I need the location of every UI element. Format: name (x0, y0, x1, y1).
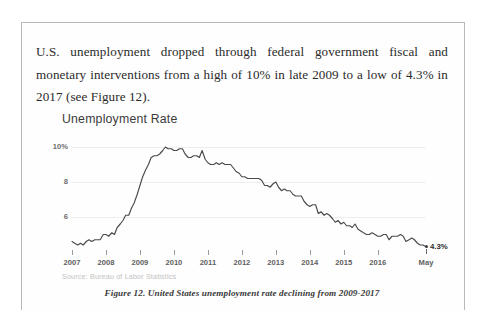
chart-source-note: Source: Bureau of Labor Statistics (62, 272, 176, 281)
x-axis-label-2008: 2008 (98, 258, 115, 267)
x-axis-tick-2013 (276, 250, 277, 255)
unemployment-line-path (72, 147, 426, 247)
x-axis-label-2015: 2015 (335, 258, 352, 267)
x-axis-tick-2015 (344, 250, 345, 255)
x-axis-tick-2010 (174, 250, 175, 255)
x-axis-tick-2011 (208, 250, 209, 255)
figure-block: Unemployment Rate 10%86 4.3% 20072008200… (36, 112, 448, 302)
x-axis-label-2010: 2010 (165, 258, 182, 267)
screenshot-page: U.S. unemployment dropped through federa… (0, 0, 483, 310)
x-axis-tick-2016 (378, 250, 379, 255)
x-axis-label-May: May (419, 258, 434, 267)
chart-line-series (36, 140, 448, 252)
x-axis-tick-2014 (310, 250, 311, 255)
body-paragraph: U.S. unemployment dropped through federa… (36, 41, 448, 109)
x-axis-tick-2007 (72, 250, 73, 255)
x-axis-tick-2012 (242, 250, 243, 255)
x-axis-label-2014: 2014 (301, 258, 318, 267)
figure-caption: Figure 12. United States unemployment ra… (36, 288, 448, 298)
chart-title: Unemployment Rate (62, 112, 178, 126)
x-axis-label-2007: 2007 (64, 258, 81, 267)
x-axis-label-2011: 2011 (200, 258, 216, 267)
x-axis-label-2016: 2016 (369, 258, 386, 267)
x-axis-tick-2008 (106, 250, 107, 255)
x-axis-label-2009: 2009 (131, 258, 148, 267)
x-axis-label-2013: 2013 (267, 258, 284, 267)
x-axis-label-2012: 2012 (233, 258, 250, 267)
x-axis-tick-2009 (140, 250, 141, 255)
chart-plot-area: 10%86 4.3% (36, 140, 448, 252)
